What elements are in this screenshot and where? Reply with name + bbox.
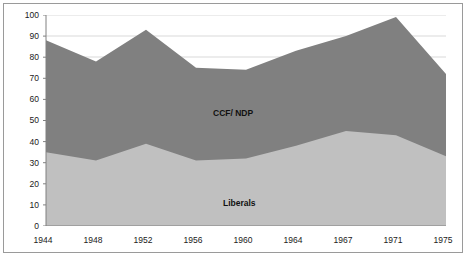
x-tick-label: 1975 bbox=[423, 236, 463, 245]
y-tick-label: 40 bbox=[13, 138, 39, 147]
y-tick-label: 10 bbox=[13, 201, 39, 210]
stacked-area-plot bbox=[43, 15, 446, 226]
y-tick-label: 30 bbox=[13, 159, 39, 168]
x-tick-label: 1967 bbox=[323, 236, 363, 245]
y-tick-label: 50 bbox=[13, 116, 39, 125]
x-tick-label: 1956 bbox=[173, 236, 213, 245]
x-tick-label: 1971 bbox=[373, 236, 413, 245]
y-tick-label: 100 bbox=[13, 11, 39, 20]
y-tick-label: 0 bbox=[13, 222, 39, 231]
y-tick-label: 80 bbox=[13, 53, 39, 62]
y-tick-label: 60 bbox=[13, 95, 39, 104]
y-axis: 100 90 80 70 60 50 40 30 20 10 0 bbox=[9, 4, 39, 260]
x-tick-label: 1960 bbox=[223, 236, 263, 245]
plot-area bbox=[43, 15, 446, 226]
x-axis: 1944 1948 1952 1956 1960 1964 1967 1971 … bbox=[4, 236, 470, 250]
x-tick-label: 1952 bbox=[123, 236, 163, 245]
x-tick-label: 1944 bbox=[23, 236, 63, 245]
y-tick-label: 20 bbox=[13, 180, 39, 189]
x-tick-label: 1964 bbox=[273, 236, 313, 245]
chart-frame: 100 90 80 70 60 50 40 30 20 10 0 bbox=[3, 3, 463, 253]
y-tick-label: 90 bbox=[13, 32, 39, 41]
y-tick-label: 70 bbox=[13, 74, 39, 83]
x-tick-label: 1948 bbox=[73, 236, 113, 245]
series-annotation-ccf-ndp: CCF/ NDP bbox=[213, 108, 253, 118]
series-annotation-liberals: Liberals bbox=[223, 198, 256, 208]
